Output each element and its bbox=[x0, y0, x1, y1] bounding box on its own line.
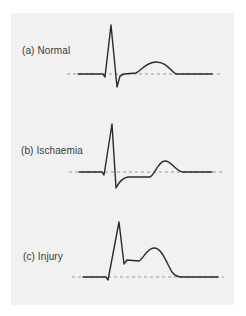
ecg-trace-injury bbox=[83, 222, 218, 280]
panel-label-ischaemia: (b) Ischaemia bbox=[21, 145, 83, 156]
ecg-trace-normal bbox=[78, 25, 212, 87]
ecg-trace-ischaemia bbox=[79, 124, 212, 188]
panel-label-normal: (a) Normal bbox=[22, 45, 70, 56]
ecg-panel-normal bbox=[67, 25, 220, 87]
panel-label-injury: (c) Injury bbox=[23, 251, 63, 262]
ecg-panel-injury bbox=[72, 222, 224, 280]
ecg-panel-ischaemia bbox=[69, 124, 222, 188]
